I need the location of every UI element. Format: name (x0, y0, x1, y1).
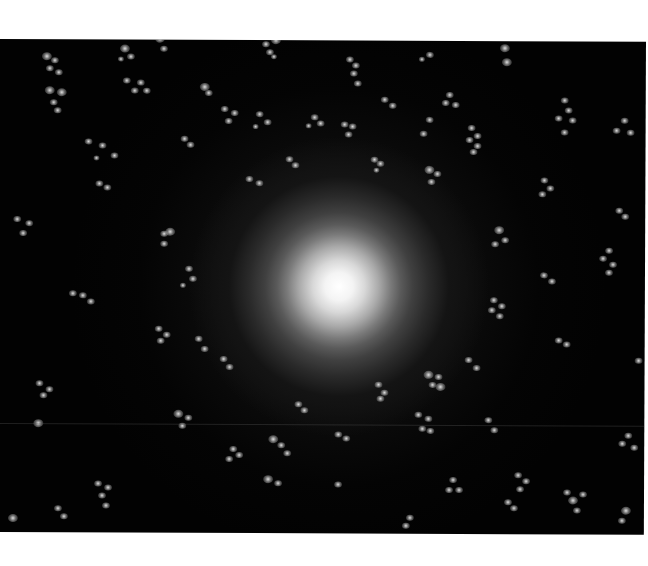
bright-dot (93, 155, 99, 160)
bright-dot (435, 383, 445, 391)
bright-dot (57, 88, 67, 96)
bright-dot (373, 168, 379, 173)
bright-dot (173, 410, 183, 418)
bright-dot (306, 123, 312, 128)
bright-dot (500, 44, 510, 52)
bright-dot (263, 475, 273, 483)
bright-dot (118, 57, 124, 62)
bright-dot (419, 57, 425, 62)
bright-dot (424, 371, 434, 379)
bright-dot (621, 507, 631, 515)
bright-dot (271, 54, 277, 59)
bright-dot (253, 124, 259, 129)
central-bright-glow (0, 39, 646, 535)
bright-dot (165, 228, 175, 236)
bright-dot (120, 45, 130, 53)
bright-dot (502, 58, 512, 66)
bright-dot (568, 496, 578, 504)
bright-dot (494, 226, 504, 234)
bright-dot (8, 514, 18, 522)
bright-dot (268, 435, 278, 443)
micrograph-image (0, 39, 646, 535)
bright-dot (180, 283, 186, 288)
bright-dot (45, 86, 55, 94)
